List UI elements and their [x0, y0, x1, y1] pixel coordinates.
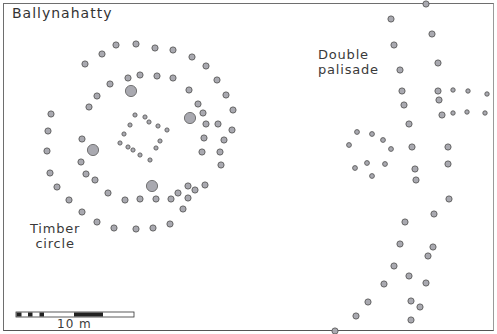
small-post-hole: [131, 148, 135, 152]
post-hole: [48, 111, 54, 117]
post-hole: [122, 197, 128, 203]
post-hole: [223, 92, 229, 98]
post-hole: [66, 197, 72, 203]
post-hole: [105, 190, 111, 196]
post-hole: [133, 41, 139, 47]
post-hole: [195, 101, 201, 107]
small-post-hole: [465, 110, 469, 114]
palisade-post-hole: [423, 1, 429, 7]
post-hole: [113, 42, 119, 48]
palisade-post-hole: [397, 241, 403, 247]
small-post-hole: [154, 146, 158, 150]
palisade-post-hole: [409, 144, 415, 150]
small-post-hole: [365, 161, 370, 166]
palisade-post-hole: [408, 317, 414, 323]
post-hole-plot: [0, 0, 497, 334]
palisade-post-hole: [445, 144, 451, 150]
palisade-annex-posts: [451, 88, 489, 115]
post-hole: [229, 127, 235, 133]
large-post-hole: [87, 144, 98, 155]
post-hole: [230, 107, 236, 113]
palisade-post-hole: [406, 121, 412, 127]
figure-title: Ballynahatty: [12, 6, 112, 21]
post-hole: [185, 195, 191, 201]
small-post-hole: [381, 138, 386, 143]
palisade-post-hole: [430, 244, 436, 250]
post-hole: [199, 149, 205, 155]
small-post-hole: [483, 111, 487, 115]
small-post-hole: [353, 166, 358, 171]
post-hole: [185, 183, 191, 189]
post-hole: [200, 110, 206, 116]
palisade-post-hole: [401, 102, 407, 108]
double-palisade-label-line1: Double: [318, 47, 379, 62]
double-palisade-inner-line: [406, 88, 452, 323]
post-hole: [189, 54, 195, 60]
post-hole: [154, 73, 160, 79]
large-post-hole: [184, 112, 195, 123]
palisade-post-hole: [332, 328, 338, 334]
palisade-post-hole: [381, 281, 387, 287]
post-hole: [47, 170, 53, 176]
post-hole: [137, 72, 143, 78]
small-post-hole: [138, 153, 142, 157]
small-post-hole: [133, 113, 137, 117]
timber-circle-label-line1: Timber: [30, 221, 80, 236]
palisade-post-hole: [439, 112, 445, 118]
post-hole: [92, 177, 98, 183]
palisade-post-hole: [391, 263, 397, 269]
small-post-hole: [370, 174, 375, 179]
palisade-post-hole: [423, 280, 429, 286]
palisade-post-hole: [408, 298, 414, 304]
small-post-hole: [118, 141, 122, 145]
post-hole: [107, 81, 113, 87]
post-hole: [99, 51, 105, 57]
post-hole: [94, 219, 100, 225]
small-post-hole: [147, 120, 151, 124]
post-hole: [153, 196, 159, 202]
post-hole: [94, 93, 100, 99]
palisade-post-hole: [388, 16, 394, 22]
small-post-hole: [451, 111, 455, 115]
post-hole: [167, 221, 173, 227]
timber-circle-outer-ring: [44, 41, 236, 232]
post-hole: [203, 121, 209, 127]
post-hole: [175, 190, 181, 196]
post-hole: [86, 104, 92, 110]
post-hole: [79, 209, 85, 215]
palisade-post-hole: [446, 196, 452, 202]
post-hole: [180, 206, 186, 212]
small-post-hole: [122, 132, 126, 136]
small-post-hole: [128, 123, 132, 127]
post-hole: [150, 225, 156, 231]
post-hole: [221, 137, 227, 143]
post-hole: [54, 184, 60, 190]
palisade-post-hole: [425, 253, 431, 259]
post-hole: [152, 45, 158, 51]
timber-circle-large-posts: [87, 85, 195, 191]
small-post-hole: [148, 158, 152, 162]
post-hole: [215, 121, 221, 127]
palisade-post-hole: [431, 211, 437, 217]
post-hole: [78, 159, 84, 165]
scale-bar-label: 10 m: [57, 317, 92, 332]
small-post-hole: [126, 145, 130, 149]
post-hole: [202, 182, 208, 188]
small-post-hole: [466, 89, 470, 93]
small-post-hole: [451, 88, 455, 92]
timber-circle-label-line2: circle: [30, 236, 80, 251]
post-hole: [44, 148, 50, 154]
small-post-hole: [143, 115, 147, 119]
small-post-hole: [156, 124, 160, 128]
palisade-post-hole: [402, 219, 408, 225]
small-post-hole: [165, 128, 169, 132]
small-post-hole: [158, 139, 162, 143]
post-hole: [203, 63, 209, 69]
palisade-post-hole: [412, 166, 418, 172]
west-post-cluster: [347, 130, 394, 179]
palisade-post-hole: [397, 67, 403, 73]
post-hole: [137, 196, 143, 202]
post-hole: [168, 196, 174, 202]
post-hole: [125, 75, 131, 81]
post-hole: [82, 61, 88, 67]
